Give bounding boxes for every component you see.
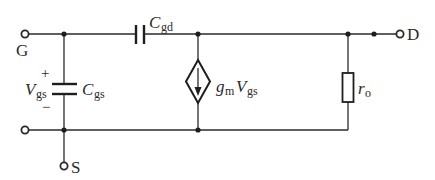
gm-subscript: m	[225, 84, 235, 98]
source-left-terminal	[21, 126, 28, 133]
cgd-subscript: gd	[161, 20, 173, 34]
junction-dot-source-bottom	[195, 127, 200, 132]
junction-dot-source	[61, 127, 66, 132]
gate-label: G	[16, 41, 28, 60]
cgs-label: C	[82, 80, 94, 99]
cgd-label: C	[149, 13, 161, 32]
drain-terminal	[396, 30, 403, 37]
ro-label: r	[358, 79, 365, 98]
vgs-minus-sign: −	[42, 99, 50, 115]
ro-subscript: o	[365, 86, 371, 100]
gm-vgs-subscript: gs	[247, 84, 258, 98]
cgs-subscript: gs	[94, 87, 105, 101]
gm-label: g	[216, 77, 225, 96]
junction-dot-drain-source	[195, 31, 200, 36]
mosfet-small-signal-circuit: G D S C gd C gs + V gs − g m V gs r o	[0, 0, 435, 180]
source-label: S	[71, 158, 80, 177]
source-terminal	[60, 162, 67, 169]
junction-dot-gate	[61, 31, 66, 36]
junction-dot-ro	[345, 31, 350, 36]
ro-resistor	[343, 73, 354, 102]
junction-dot-drain	[371, 31, 376, 36]
vgs-plus-sign: +	[41, 65, 49, 81]
gate-terminal	[21, 30, 28, 37]
drain-label: D	[407, 25, 419, 44]
